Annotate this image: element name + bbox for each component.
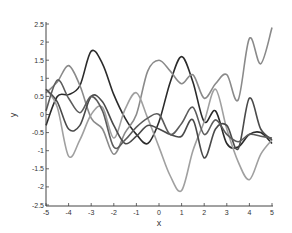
y-tick-label: -2.5	[32, 202, 44, 209]
y-tick-label: -2	[38, 183, 44, 190]
x-tick-label: 3	[225, 209, 229, 216]
line-chart: -5-4-3-2-1012345 2.521.510.50-0.5-1-1.5-…	[0, 0, 292, 233]
series-lines	[46, 28, 272, 192]
x-tick-label: -5	[43, 209, 49, 216]
x-tick-label: 0	[157, 209, 161, 216]
y-tick-label: 2	[40, 39, 44, 46]
x-tick-label: -1	[133, 209, 139, 216]
series-line	[46, 89, 272, 191]
y-tick-label: 0.5	[34, 93, 44, 100]
y-tick-label: 2.5	[34, 21, 44, 28]
series-line	[46, 28, 272, 155]
y-tick-label: 0	[40, 111, 44, 118]
y-tick-label: -1.5	[32, 165, 44, 172]
x-axis-label: x	[157, 218, 162, 228]
x-tick-label: 5	[270, 209, 274, 216]
x-tick-label: 2	[202, 209, 206, 216]
y-tick-label: -1	[38, 147, 44, 154]
x-tick-label: -3	[88, 209, 94, 216]
y-tick-label: 1	[40, 75, 44, 82]
y-tick-label: -0.5	[32, 129, 44, 136]
x-tick-label: -4	[65, 209, 71, 216]
y-tick-label: 1.5	[34, 57, 44, 64]
x-tick-label: 1	[180, 209, 184, 216]
x-ticks: -5-4-3-2-1012345	[43, 203, 274, 216]
y-axis-label: y	[8, 112, 18, 117]
x-tick-label: -2	[111, 209, 117, 216]
x-tick-label: 4	[247, 209, 251, 216]
